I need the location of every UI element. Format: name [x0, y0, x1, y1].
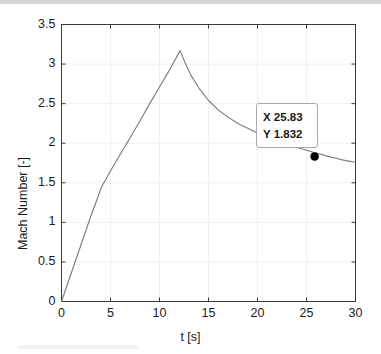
x-tick-label: 20: [238, 306, 278, 320]
y-axis-label: Mach Number [-]: [16, 157, 30, 250]
x-tick-label: 30: [336, 306, 376, 320]
y-tick-label: 0: [16, 294, 56, 308]
x-tick-label: 5: [91, 306, 131, 320]
y-tick-label: 2: [16, 135, 56, 149]
y-tick-label: 1: [16, 214, 56, 228]
x-tick-label: 15: [189, 306, 229, 320]
x-tick-label: 25: [287, 306, 327, 320]
x-tick-label: 10: [140, 306, 180, 320]
y-tick-label: 3: [16, 56, 56, 70]
gridlines: [62, 25, 356, 302]
datatip-box[interactable]: X 25.83 Y 1.832: [256, 103, 318, 148]
y-tick-label: 2.5: [16, 96, 56, 110]
y-tick-label: 3.5: [16, 17, 56, 31]
mach-number-line-chart: [0, 0, 381, 354]
y-tick-label: 1.5: [16, 175, 56, 189]
datatip-y-value: Y 1.832: [263, 126, 317, 143]
datatip-x-value: X 25.83: [263, 109, 317, 126]
y-tick-label: 0.5: [16, 254, 56, 268]
figure-canvas: X 25.83 Y 1.832 t [s] Mach Number [-] 05…: [0, 0, 381, 354]
x-tick-label: 0: [42, 306, 82, 320]
datatip-marker-icon[interactable]: [310, 152, 319, 161]
x-axis-label: t [s]: [0, 330, 381, 344]
